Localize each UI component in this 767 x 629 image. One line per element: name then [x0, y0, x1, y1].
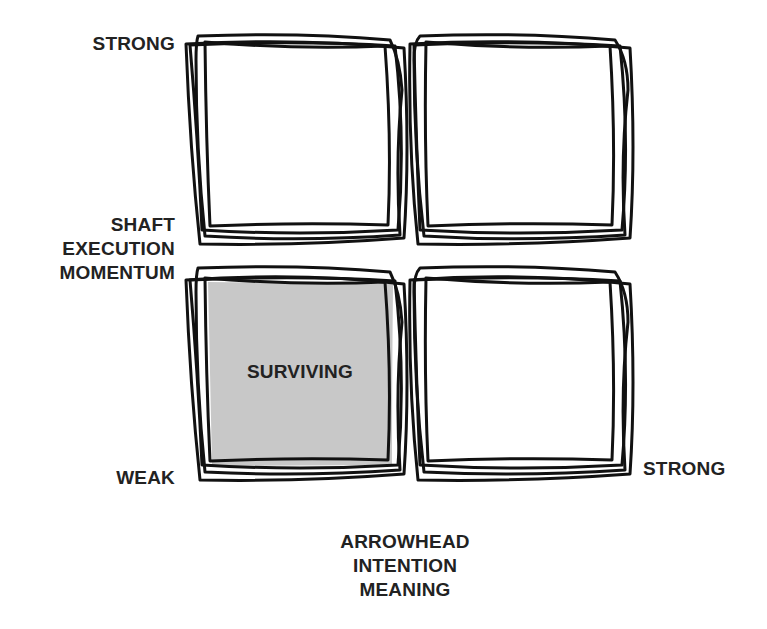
y-axis-label-line-1: SHAFT	[59, 213, 175, 237]
y-axis-middle-label: SHAFT EXECUTION MOMENTUM	[59, 213, 175, 285]
x-axis-bottom-label: ARROWHEAD INTENTION MEANING	[305, 530, 505, 602]
y-axis-label-line-2: EXECUTION	[59, 237, 175, 261]
x-axis-label-line-1: ARROWHEAD	[305, 530, 505, 554]
quadrant-top-left	[186, 35, 407, 245]
x-axis-right-label: STRONG	[643, 457, 725, 481]
quadrant-bottom-right	[410, 267, 633, 481]
x-axis-label-line-3: MEANING	[305, 578, 505, 602]
y-axis-bottom-label: WEAK	[116, 466, 175, 490]
quadrant-label-surviving: SURVIVING	[210, 360, 390, 384]
y-axis-top-label: STRONG	[93, 32, 175, 56]
y-axis-label-line-3: MOMENTUM	[59, 261, 175, 285]
quadrant-top-right	[410, 35, 633, 245]
x-axis-label-line-2: INTENTION	[305, 554, 505, 578]
